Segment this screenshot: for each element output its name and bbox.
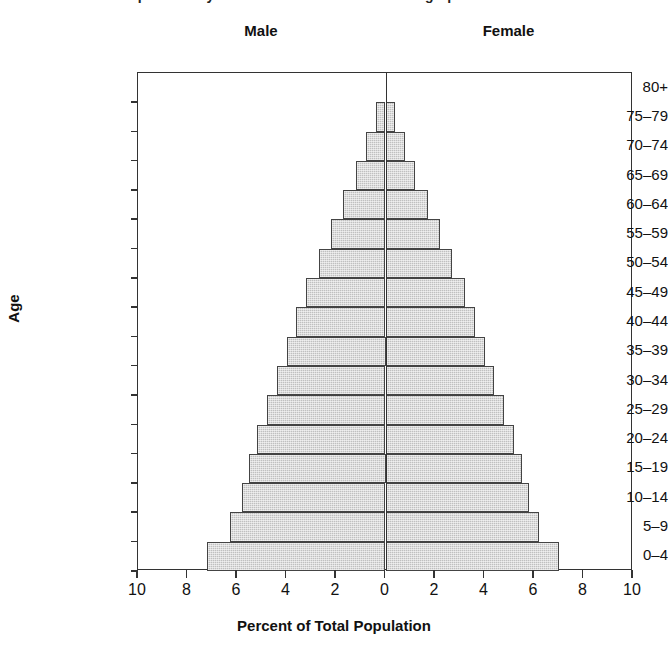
- y-axis-tick-label: 35–39: [576, 341, 668, 358]
- y-axis-tick-mark: [131, 541, 138, 543]
- legend-label-male: Male: [137, 22, 385, 39]
- x-axis-tick-label: 6: [216, 581, 256, 599]
- bar-female: [386, 190, 428, 219]
- bar-female: [386, 454, 522, 483]
- x-axis-tick-label: 6: [513, 581, 553, 599]
- bar-female: [386, 512, 539, 541]
- bar-female: [386, 542, 559, 571]
- x-axis-tick-label: 10: [117, 581, 157, 599]
- x-axis-tick-mark: [631, 570, 633, 578]
- x-axis-title: Percent of Total Population: [0, 617, 668, 634]
- bar-female: [386, 249, 453, 278]
- y-axis-tick-mark: [131, 248, 138, 250]
- bar-male: [366, 132, 386, 161]
- x-axis-tick-mark: [334, 570, 336, 578]
- bar-male: [296, 307, 385, 336]
- y-axis-tick-mark: [131, 131, 138, 133]
- y-axis-tick-mark: [131, 306, 138, 308]
- x-axis-tick-label: 8: [167, 581, 207, 599]
- y-axis-tick-label: 50–54: [576, 253, 668, 270]
- y-axis-tick-mark: [131, 336, 138, 338]
- y-axis-tick-mark: [131, 453, 138, 455]
- bar-female: [386, 483, 530, 512]
- x-axis-tick-mark: [285, 570, 287, 578]
- bar-female: [386, 219, 440, 248]
- bar-female: [386, 132, 406, 161]
- bar-male: [242, 483, 386, 512]
- bar-male: [287, 337, 386, 366]
- y-axis-tick-label: 25–29: [576, 400, 668, 417]
- bar-male: [331, 219, 385, 248]
- bar-male: [267, 395, 386, 424]
- y-axis-tick-label: 0–4: [576, 546, 668, 563]
- bar-male: [207, 542, 385, 571]
- y-axis-tick-mark: [131, 424, 138, 426]
- y-axis-tick-mark: [131, 365, 138, 367]
- y-axis-tick-label: 20–24: [576, 429, 668, 446]
- y-axis-tick-mark: [131, 511, 138, 513]
- y-axis-tick-label: 65–69: [576, 166, 668, 183]
- y-axis-tick-mark: [131, 394, 138, 396]
- y-axis-tick-mark: [131, 101, 138, 103]
- y-axis-tick-mark: [131, 189, 138, 191]
- bar-female: [386, 366, 495, 395]
- bar-male: [319, 249, 386, 278]
- y-axis-tick-label: 10–14: [576, 488, 668, 505]
- bar-female: [386, 161, 416, 190]
- bar-male: [249, 454, 385, 483]
- y-axis-tick-label: 80+: [576, 78, 668, 95]
- bar-female: [386, 425, 515, 454]
- y-axis-tick-mark: [131, 482, 138, 484]
- x-axis-tick-mark: [433, 570, 435, 578]
- x-axis-tick-label: 4: [464, 581, 504, 599]
- y-axis-tick-mark: [131, 218, 138, 220]
- bar-male: [376, 102, 386, 131]
- x-axis-tick-label: 2: [414, 581, 454, 599]
- bar-female: [386, 337, 485, 366]
- y-axis-tick-label: 70–74: [576, 136, 668, 153]
- bar-female: [386, 395, 505, 424]
- center-axis-line: [386, 73, 388, 571]
- plot-area: [137, 72, 632, 570]
- x-axis-tick-label: 10: [612, 581, 652, 599]
- bar-male: [277, 366, 386, 395]
- x-axis-tick-mark: [136, 570, 138, 578]
- x-axis-tick-mark: [483, 570, 485, 578]
- x-axis-tick-mark: [186, 570, 188, 578]
- bar-male: [230, 512, 386, 541]
- bar-male: [257, 425, 386, 454]
- x-axis-tick-mark: [384, 570, 386, 578]
- bar-female: [386, 307, 475, 336]
- y-axis-tick-label: 30–34: [576, 371, 668, 388]
- y-axis-tick-mark: [131, 160, 138, 162]
- x-axis-tick-label: 8: [563, 581, 603, 599]
- x-axis-tick-label: 2: [315, 581, 355, 599]
- y-axis-tick-mark: [131, 277, 138, 279]
- x-axis-tick-label: 0: [365, 581, 405, 599]
- y-axis-tick-label: 15–19: [576, 458, 668, 475]
- bar-male: [306, 278, 385, 307]
- x-axis-tick-mark: [582, 570, 584, 578]
- legend-label-female: Female: [385, 22, 632, 39]
- y-axis-tick-label: 40–44: [576, 312, 668, 329]
- y-axis-tick-label: 60–64: [576, 195, 668, 212]
- bar-male: [356, 161, 386, 190]
- y-axis-tick-label: 55–59: [576, 224, 668, 241]
- bar-female: [386, 278, 465, 307]
- x-axis-tick-label: 4: [266, 581, 306, 599]
- y-axis-title: Age: [5, 274, 22, 344]
- x-axis-tick-mark: [235, 570, 237, 578]
- chart-title: Population Pyramid at the Onset of the D…: [0, 0, 668, 3]
- bar-male: [343, 190, 385, 219]
- y-axis-tick-label: 5–9: [576, 517, 668, 534]
- y-axis-tick-label: 45–49: [576, 283, 668, 300]
- y-axis-tick-label: 75–79: [576, 107, 668, 124]
- x-axis-tick-mark: [532, 570, 534, 578]
